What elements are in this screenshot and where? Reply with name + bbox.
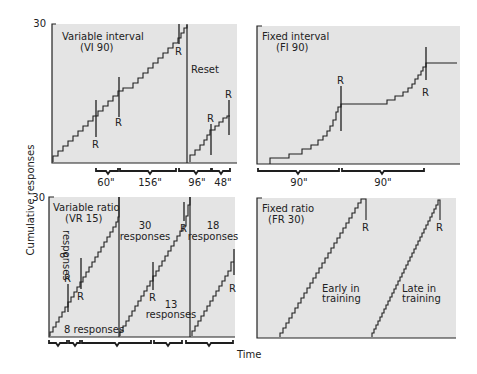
vr-interval-brace [49,340,67,346]
fr-early-label-2: training [322,293,361,304]
fr-r-label: R [436,222,443,233]
panel-vr-subtitle: (VR 15) [65,213,103,224]
vi-r-label: R [207,113,214,124]
vr-r-label: R [180,223,187,234]
schedules-figure: Cumulative responses 30 Variable interva… [0,0,477,374]
vr-annotation-8: 8 responses [64,324,124,335]
y-max-label: 30 [33,18,46,29]
fi-interval-label: 90" [374,177,391,188]
panel-vi-subtitle: (VI 90) [80,42,114,53]
panel-vi-title: Variable interval [62,31,144,42]
vr-annotation-13-responses: responses [146,309,197,320]
x-axis-label: Time [236,349,261,360]
panel-variable-ratio: 30 Variable ratio (VR 15) R R 6 response… [32,192,238,346]
y-max-label: 30 [32,192,45,203]
vr-interval-brace [154,340,182,346]
vr-r-label: R [77,291,84,302]
fr-late-label-2: training [402,293,441,304]
panel-variable-interval: 30 Variable interval (VI 90) R R R Reset… [33,18,237,188]
vi-interval-brace [179,168,211,174]
vi-interval-label: 60" [97,177,114,188]
vr-annotation-18: 18 [207,220,220,231]
panel-fr-title: Fixed ratio [262,203,314,214]
fi-interval-brace [258,168,339,174]
vr-annotation-30-responses: responses [120,231,171,242]
vi-r-label: R [92,139,99,150]
fi-r-label: R [422,87,429,98]
fi-r-label: R [337,75,344,86]
panel-vr-title: Variable ratio [53,202,120,213]
vr-interval-brace [69,340,80,346]
vr-annotation-30: 30 [139,220,152,231]
vi-r-label: R [175,46,182,57]
vi-interval-brace [120,168,176,174]
vr-interval-brace [82,340,151,346]
vi-interval-label: 156" [138,177,162,188]
vr-annotation-6-responses: responses [61,230,72,281]
vi-r-label: R [115,117,122,128]
vi-interval-brace [96,168,118,174]
panel-fr-subtitle: (FR 30) [268,214,305,225]
vi-reset-label: Reset [191,64,219,75]
panel-fi-title: Fixed interval [262,31,329,42]
vr-interval-brace [186,340,233,346]
fr-r-label: R [362,222,369,233]
vi-r-label: R [225,89,232,100]
vi-interval-label: 96" [188,177,205,188]
vi-interval-label: 48" [214,177,231,188]
fi-interval-label: 90" [290,177,307,188]
panel-fi-subtitle: (FI 90) [276,42,309,53]
vr-r-label: R [149,292,156,303]
panel-fixed-interval: Fixed interval (FI 90) R R 90" 90" [257,26,460,188]
fi-interval-brace [342,168,424,174]
vi-interval-brace [212,168,230,174]
vr-r-label: R [229,283,236,294]
vr-annotation-18-responses: responses [188,231,239,242]
panel-fixed-ratio: Fixed ratio (FR 30) R Early in training … [257,198,456,338]
